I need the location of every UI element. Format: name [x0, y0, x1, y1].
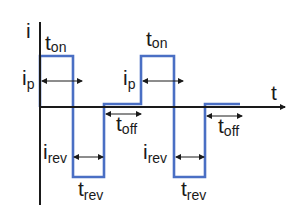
pulse-reverse-waveform-diagram: i t ton ton ip ip toff toff irev irev tr… — [0, 0, 297, 211]
labels: i t ton ton ip ip toff toff irev irev tr… — [22, 19, 277, 203]
i-rev-2-label: irev — [143, 140, 167, 166]
t-off-1-label: toff — [116, 112, 137, 137]
t-on-2-label: ton — [146, 27, 167, 51]
t-off-2-label: toff — [218, 114, 239, 139]
i-p-2-label: ip — [123, 66, 136, 92]
x-axis-label: t — [271, 81, 277, 104]
i-p-1-label: ip — [22, 66, 35, 92]
i-rev-1-label: irev — [43, 140, 67, 166]
t-rev-1-label: trev — [78, 177, 103, 203]
t-rev-2-label: trev — [181, 177, 206, 203]
y-axis-label: i — [26, 19, 31, 42]
t-on-1-label: ton — [45, 31, 66, 55]
